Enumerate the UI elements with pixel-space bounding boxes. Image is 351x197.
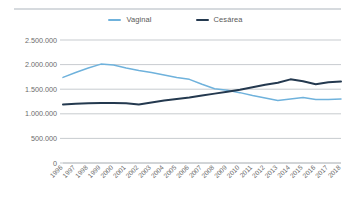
series-line-cesrea — [63, 79, 341, 104]
x-axis-tick-labels: 1996199719981999200020012002200320042005… — [48, 164, 342, 180]
plot-area: 0500.0001.000.0001.500.0002.000.0002.500… — [0, 0, 351, 197]
x-tick-label-2006: 2006 — [175, 164, 191, 180]
x-tick-label-2000: 2000 — [99, 164, 115, 180]
x-tick-label-1998: 1998 — [74, 164, 90, 180]
x-tick-label-2016: 2016 — [301, 164, 317, 180]
x-tick-label-2015: 2015 — [288, 164, 304, 180]
data-series-group — [63, 64, 341, 104]
x-tick-label-2002: 2002 — [124, 164, 140, 180]
x-tick-label-2005: 2005 — [162, 164, 178, 180]
y-tick-label-500000: 500.000 — [31, 134, 57, 143]
x-tick-label-2017: 2017 — [314, 164, 330, 180]
gridlines-group — [60, 40, 341, 163]
x-tick-label-1999: 1999 — [86, 164, 102, 180]
y-axis-tick-labels: 0500.0001.000.0001.500.0002.000.0002.500… — [25, 36, 57, 168]
x-tick-label-2007: 2007 — [187, 164, 203, 180]
x-tick-label-2008: 2008 — [200, 164, 216, 180]
y-tick-label-1500000: 1.500.000 — [25, 85, 57, 94]
x-tick-label-2018: 2018 — [326, 164, 342, 180]
y-tick-label-2000000: 2.000.000 — [25, 60, 57, 69]
x-tick-label-2011: 2011 — [238, 164, 253, 179]
x-tick-label-1997: 1997 — [61, 164, 77, 180]
x-tick-label-2014: 2014 — [276, 164, 292, 180]
line-chart-figure: Vaginal Cesárea 0500.0001.000.0001.500.0… — [0, 0, 351, 197]
x-tick-label-2003: 2003 — [137, 164, 153, 180]
x-tick-label-2009: 2009 — [213, 164, 229, 180]
x-tick-label-1996: 1996 — [48, 164, 64, 180]
x-tick-label-2012: 2012 — [251, 164, 267, 180]
y-tick-label-2500000: 2.500.000 — [25, 36, 57, 45]
chart-svg: 0500.0001.000.0001.500.0002.000.0002.500… — [0, 0, 351, 197]
x-tick-label-2004: 2004 — [149, 164, 165, 180]
y-tick-label-1000000: 1.000.000 — [25, 109, 57, 118]
x-tick-label-2001: 2001 — [112, 164, 128, 180]
x-tick-label-2010: 2010 — [225, 164, 241, 180]
x-tick-label-2013: 2013 — [263, 164, 279, 180]
